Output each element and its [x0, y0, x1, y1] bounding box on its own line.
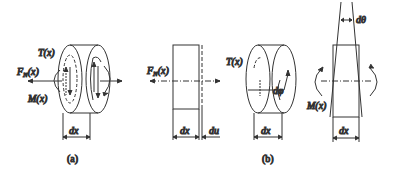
label-dphi: dφ: [273, 85, 284, 96]
label-axial-force-b: FN(x): [146, 65, 170, 78]
caption-a: (a): [67, 153, 78, 165]
panel-b2-torsion-element: [246, 45, 296, 140]
label-dx-a: dx: [69, 125, 79, 136]
label-moment-a: M(x): [27, 93, 48, 105]
mechanics-diagram: T(x) FN(x) M(x) dx (a) FN(x) dx du: [0, 0, 393, 177]
label-axial-force-a: FN(x): [16, 66, 40, 79]
label-torque-a: T(x): [38, 47, 55, 59]
label-torque-b: T(x): [226, 56, 243, 68]
label-dx-b2: dx: [261, 125, 271, 136]
caption-b: (b): [262, 153, 274, 165]
label-moment-b: M(x): [306, 100, 327, 112]
label-dtheta: dθ: [356, 14, 366, 25]
panel-b3-bending-element: [315, 2, 377, 142]
label-dx-b1: dx: [180, 125, 190, 136]
label-du: du: [209, 125, 219, 136]
label-dx-b3: dx: [339, 125, 349, 136]
